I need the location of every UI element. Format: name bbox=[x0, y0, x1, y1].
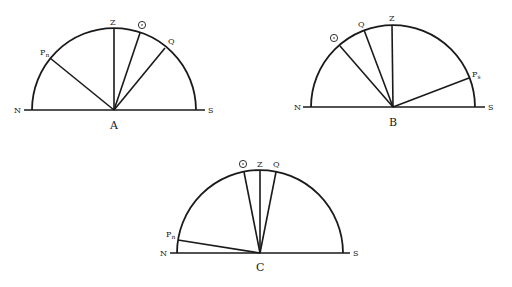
north-label: N bbox=[160, 249, 167, 258]
north-label: N bbox=[14, 106, 21, 115]
equator-label: Q bbox=[358, 20, 365, 29]
diagram-caption: A bbox=[109, 119, 119, 132]
sun-line bbox=[114, 33, 140, 110]
equator-line bbox=[114, 48, 165, 110]
sun-icon bbox=[138, 21, 145, 28]
sun-icon bbox=[330, 34, 337, 41]
sun-line bbox=[244, 172, 260, 253]
sun-icon bbox=[239, 160, 246, 167]
pole-line bbox=[393, 78, 469, 107]
south-label: S bbox=[208, 106, 213, 115]
south-label: S bbox=[488, 103, 493, 112]
equator-label: Q bbox=[168, 37, 175, 46]
zenith-label: Z bbox=[110, 18, 116, 27]
zenith-label: Z bbox=[257, 160, 263, 169]
pole-label: Pn bbox=[166, 230, 175, 240]
equator-line bbox=[260, 172, 276, 253]
sun-line bbox=[340, 46, 393, 107]
pole-label: Pn bbox=[40, 48, 49, 58]
diagram-b: N S Z Q Ps B bbox=[294, 14, 493, 129]
zenith-label: Z bbox=[389, 14, 395, 23]
celestial-diagrams: N S Z Q Pn A N S Z Q Ps B bbox=[0, 0, 512, 287]
pole-line bbox=[178, 240, 260, 253]
pole-line bbox=[50, 58, 114, 110]
south-label: S bbox=[353, 249, 358, 258]
equator-line bbox=[364, 30, 393, 107]
diagram-c: N S Z Q Pn C bbox=[160, 160, 358, 274]
diagram-caption: C bbox=[256, 261, 264, 274]
equator-label: Q bbox=[273, 160, 280, 169]
zenith-line bbox=[392, 25, 393, 107]
diagram-a: N S Z Q Pn A bbox=[14, 18, 213, 132]
north-label: N bbox=[294, 103, 301, 112]
pole-label: Ps bbox=[472, 70, 480, 80]
diagram-caption: B bbox=[389, 116, 397, 129]
